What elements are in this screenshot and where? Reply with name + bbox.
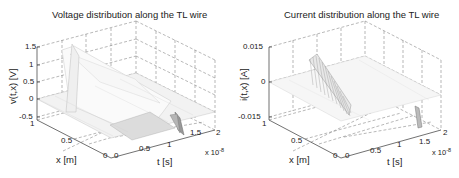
current-t-exponent: x 10-8 [432,148,451,157]
voltage-z-axis-label: v(t,x) [V] [8,69,18,104]
current-z-axis-label: i(t,x) [A] [239,68,249,101]
voltage-t-tick: 0 [114,152,118,160]
voltage-surface-plot: Voltage distribution along the TL wire v… [0,0,229,178]
voltage-t-exponent: x 10-8 [205,148,224,157]
current-t-tick: 1.5 [419,138,430,146]
voltage-x-tick: 0 [103,152,107,160]
current-plot-canvas [229,0,459,178]
voltage-t-tick: 0.5 [139,145,150,153]
current-x-tick: 1 [262,120,266,128]
current-surface-plot: Current distribution along the TL wire i… [229,0,459,178]
voltage-x-tick: 1 [30,120,34,128]
voltage-t-tick: 1 [167,141,171,149]
voltage-plot-title: Voltage distribution along the TL wire [52,9,207,20]
current-t-tick: 2 [443,129,447,137]
current-z-tick: 0.015 [243,43,263,51]
voltage-x-axis-label: x [m] [56,155,77,165]
current-t-axis-label: t [s] [387,157,402,167]
voltage-t-axis-label: t [s] [157,157,172,167]
voltage-x-tick: 0.5 [61,137,72,145]
current-t-tick: 0 [345,152,349,160]
voltage-z-tick: 1.5 [25,43,36,51]
voltage-t-tick: 1.5 [190,129,201,137]
current-x-tick: 0.5 [291,137,302,145]
current-z-tick: -0.015 [238,113,261,121]
current-plot-title: Current distribution along the TL wire [284,9,439,20]
current-x-axis-label: x [m] [289,155,310,165]
current-x-tick: 0 [333,152,337,160]
current-z-tick: 0 [261,78,265,86]
voltage-t-tick: 2 [216,129,220,137]
voltage-z-tick: 1 [29,61,33,69]
voltage-z-tick: 0 [29,95,33,103]
current-t-tick: 1 [397,141,401,149]
current-t-tick: 0.5 [370,147,381,155]
voltage-z-tick: 0.5 [23,78,34,86]
